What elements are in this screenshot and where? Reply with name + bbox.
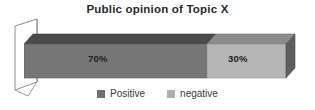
legend-swatch-negative-icon [167, 90, 175, 98]
chart-title: Public opinion of Topic X [0, 3, 315, 15]
stacked-bar-3d [24, 33, 304, 83]
legend-item-positive[interactable]: Positive [97, 88, 145, 99]
legend-label-positive: Positive [110, 88, 145, 99]
chart-legend: Positive negative [0, 88, 315, 99]
legend-swatch-positive-icon [97, 90, 105, 98]
data-label-negative: 30% [228, 53, 248, 64]
bar-segment-positive-top-face [24, 34, 216, 44]
data-label-positive: 70% [88, 53, 108, 64]
bar-segment-positive [24, 44, 207, 78]
legend-label-negative: negative [180, 88, 218, 99]
legend-item-negative[interactable]: negative [167, 88, 218, 99]
bar-segment-negative-top-face [207, 34, 295, 44]
chart-container: Public opinion of Topic X 70% 30% [0, 0, 315, 110]
